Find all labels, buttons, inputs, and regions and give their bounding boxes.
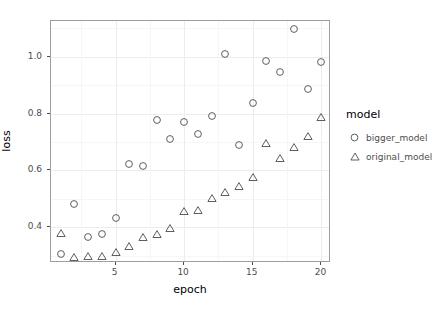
- data-point: [124, 242, 134, 251]
- data-point: [138, 161, 147, 170]
- x-tick-mark: [320, 262, 321, 265]
- gridline-vertical-minor: [287, 21, 288, 261]
- x-tick-label: 10: [177, 267, 188, 277]
- x-axis-title: epoch: [50, 283, 330, 296]
- data-point: [152, 229, 162, 238]
- data-point: [84, 232, 93, 241]
- x-tick-label: 5: [112, 267, 118, 277]
- plot-panel: [50, 20, 330, 262]
- data-point: [276, 68, 285, 77]
- gridline-vertical: [184, 21, 185, 261]
- y-tick-label: 0.4: [18, 221, 42, 231]
- legend-item-label: bigger_model: [366, 133, 427, 143]
- x-tick-mark: [183, 262, 184, 265]
- data-point: [152, 115, 161, 124]
- data-point: [303, 131, 313, 140]
- data-point: [220, 188, 230, 197]
- y-tick-label: 0.8: [18, 108, 42, 118]
- y-tick-label: 1.0: [18, 51, 42, 61]
- legend-item-label: original_model: [366, 152, 432, 162]
- data-point: [56, 228, 66, 237]
- data-point: [70, 200, 79, 209]
- gridline-vertical: [116, 21, 117, 261]
- legend-item-original-model: original_model: [346, 147, 441, 166]
- x-tick-label: 20: [315, 267, 326, 277]
- triangle-marker-icon: [346, 148, 363, 165]
- legend-entries: bigger_modeloriginal_model: [346, 128, 441, 166]
- data-point: [207, 193, 217, 202]
- data-point: [69, 253, 79, 262]
- data-point: [234, 181, 244, 190]
- gridline-vertical-minor: [81, 21, 82, 261]
- legend-item-bigger-model: bigger_model: [346, 128, 441, 147]
- data-point: [289, 25, 298, 34]
- data-point: [97, 230, 106, 239]
- x-tick-mark: [115, 262, 116, 265]
- x-tick-mark: [252, 262, 253, 265]
- data-point: [56, 250, 65, 259]
- gridline-vertical: [253, 21, 254, 261]
- gridline-vertical: [321, 21, 322, 261]
- data-point: [275, 153, 285, 162]
- legend-title: model: [346, 108, 441, 121]
- data-point: [193, 129, 202, 138]
- x-tick-label: 15: [246, 267, 257, 277]
- data-point: [289, 143, 299, 152]
- y-axis-title: loss: [0, 130, 13, 151]
- data-point: [138, 233, 148, 242]
- data-point: [193, 205, 203, 214]
- scatter-plot-figure: 0.40.60.81.0 5101520 epoch loss model bi…: [0, 0, 441, 310]
- y-tick-label: 0.6: [18, 164, 42, 174]
- legend: model bigger_modeloriginal_model: [346, 108, 441, 166]
- gridline-vertical-minor: [218, 21, 219, 261]
- gridline-vertical-minor: [150, 21, 151, 261]
- data-point: [125, 159, 134, 168]
- circle-marker-icon: [346, 129, 363, 146]
- data-point: [262, 56, 271, 65]
